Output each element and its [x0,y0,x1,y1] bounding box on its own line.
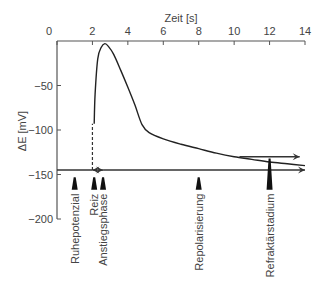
x-tick-label: 4 [125,25,131,37]
potential-curve [92,44,305,170]
y-tick-label: −200 [28,213,53,225]
y-tick-label: −150 [28,169,53,181]
phase-label: Repolarisierung [193,194,205,271]
phase-marker-icon [100,177,106,189]
x-tick-label: 12 [263,25,275,37]
x-tick-label: 2 [89,25,95,37]
phase-label: Refraktärstadium [264,194,276,278]
phase-label: Ruhepotenzial [69,194,81,264]
x-tick-label: 8 [196,25,202,37]
y-tick-label: −100 [28,124,53,136]
phase-marker-icon [267,158,273,189]
x-tick-label: 0 [46,25,52,37]
y-axis-title: ΔE [mV] [16,111,28,151]
x-tick-label: 10 [228,25,240,37]
phase-markers: RuhepotenzialReizAnstiegsphaseRepolarisi… [57,153,305,277]
x-tick-label: 6 [160,25,166,37]
potential-line [94,44,305,166]
phase-marker-icon [196,177,202,189]
phase-marker-icon [72,177,78,189]
x-axis-title: Zeit [s] [164,12,197,24]
x-tick-label: 14 [299,25,311,37]
phase-label: Anstiegsphase [97,194,109,266]
y-tick-label: −50 [34,80,53,92]
action-potential-chart: 02468101214−50−100−150−200 Ruhepotenzial… [0,0,326,285]
phase-marker-icon [91,177,97,189]
